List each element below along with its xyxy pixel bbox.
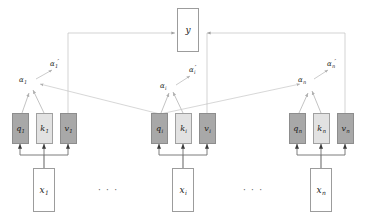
q-to-alpha-group-2: [161, 93, 169, 113]
alpha-label-1: α1: [19, 77, 27, 84]
alpha-prime-label-2: αi′: [189, 67, 197, 74]
alpha-label-2: αi: [160, 83, 166, 90]
ellipsis-left: · · ·: [98, 186, 118, 195]
alpha-sub-2: i: [165, 85, 167, 91]
alpha-prime-tick-2: ′: [195, 64, 197, 72]
input-label-3: xn: [317, 186, 326, 195]
query-node-1: q1: [12, 113, 29, 144]
input-label-1: x1: [40, 186, 49, 195]
value-label-1: v1: [64, 125, 72, 133]
query-node-3: qn: [289, 113, 306, 144]
output-label: y: [185, 26, 190, 35]
key-label-2: ki: [180, 125, 187, 133]
input-node-3: xn: [310, 168, 332, 212]
query-label-2: qi: [156, 125, 163, 133]
alpha-prime-label-1: α1′: [50, 61, 60, 68]
ellipsis-right: · · ·: [243, 186, 263, 195]
query-label-3: qn: [293, 125, 302, 133]
q-to-alpha-group-3: [299, 93, 308, 113]
self-attention-diagram: y α1′ αi′ αn′ α1 αi αn q1 k1 v1 qi ki vi…: [0, 0, 366, 224]
alpha-sub-1: 1: [24, 79, 27, 85]
input-label-2: xi: [180, 186, 187, 195]
alpha-label-3: αn: [298, 77, 306, 84]
alpha-prime-label-3: αn′: [327, 61, 337, 68]
cross-attention-wires: [40, 84, 300, 114]
input-node-2: xi: [172, 168, 194, 212]
value-label-2: vi: [204, 125, 210, 133]
k-to-alpha-group-1: [33, 90, 44, 113]
input-bus-group-3: [297, 144, 345, 168]
value-weighted-sum-wires: [68, 33, 345, 113]
k-to-alpha-group-2: [173, 92, 183, 113]
input-node-1: x1: [33, 168, 55, 212]
query-label-1: q1: [16, 125, 25, 133]
alpha-sub-3: n: [303, 79, 306, 85]
key-node-2: ki: [175, 113, 192, 144]
input-bus-group-1: [20, 144, 68, 168]
input-bus-group-2: [159, 144, 207, 168]
value-label-3: vn: [341, 125, 349, 133]
value-node-2: vi: [199, 113, 216, 144]
key-label-3: kn: [317, 125, 325, 133]
output-node-y: y: [177, 8, 199, 52]
value-node-1: v1: [60, 113, 77, 144]
key-node-1: k1: [36, 113, 53, 144]
key-label-1: k1: [40, 125, 48, 133]
value-node-3: vn: [337, 113, 354, 144]
query-node-2: qi: [151, 113, 168, 144]
alpha-prime-tick-1: ′: [57, 58, 59, 66]
alpha-prime-tick-3: ′: [334, 58, 336, 66]
q-to-alpha-group-1: [22, 93, 29, 113]
key-node-3: kn: [313, 113, 330, 144]
k-to-alpha-group-3: [312, 91, 321, 113]
softmax-arrows: [36, 70, 328, 85]
